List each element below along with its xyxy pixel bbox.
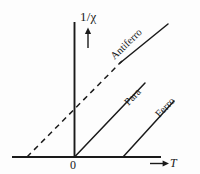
y-axis-label: 1/χ — [80, 10, 96, 23]
susceptibility-figure: 1/χ 0 T Antiferro Para Ferro — [0, 0, 200, 174]
x-axis-label: T — [170, 157, 177, 169]
origin-label: 0 — [70, 159, 76, 171]
up-arrow-icon — [85, 28, 91, 49]
figure-canvas — [0, 0, 200, 174]
right-arrow-icon — [150, 161, 169, 167]
